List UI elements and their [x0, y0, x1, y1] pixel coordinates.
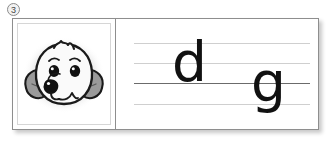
exercise-number-badge: 3 — [7, 3, 20, 16]
letter-g: g — [251, 55, 286, 110]
worksheet-card: d g — [12, 18, 319, 130]
picture-panel — [13, 19, 116, 129]
dog-face-icon — [18, 24, 110, 124]
letters-group: d g — [134, 19, 310, 129]
letter-d: d — [172, 35, 207, 90]
writing-panel: d g — [116, 19, 318, 129]
dog-face-illustration-svg — [18, 28, 110, 120]
picture-frame — [17, 23, 111, 125]
